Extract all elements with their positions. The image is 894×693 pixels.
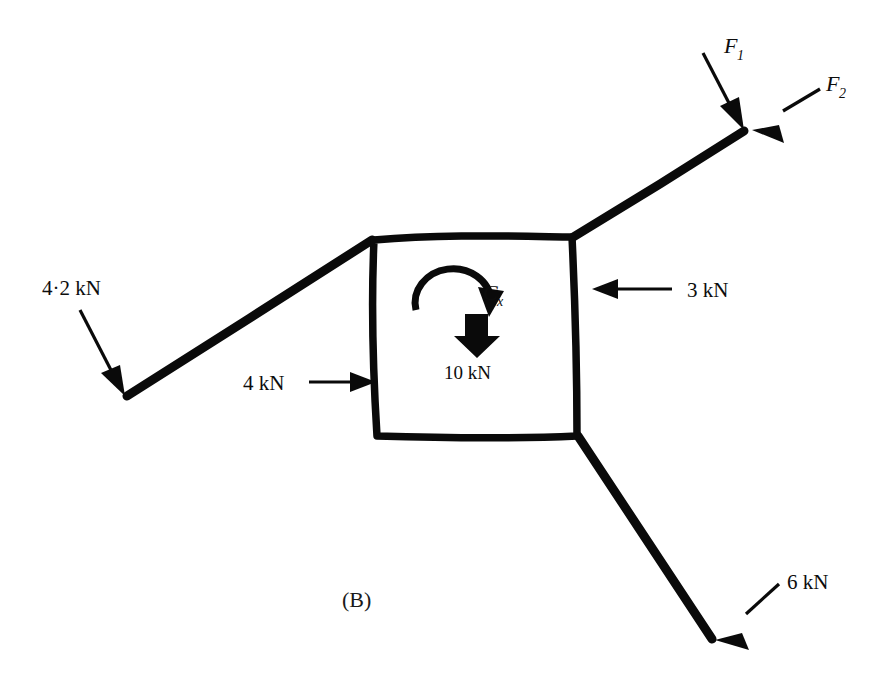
free-body-diagram: C x 10 kN 3 kN 4 kN 4·2 kN: [0, 0, 894, 693]
force-F2-arrowhead: [752, 125, 784, 143]
upper-right-member: [570, 131, 744, 239]
diagram-canvas: C x 10 kN 3 kN 4 kN 4·2 kN: [0, 0, 894, 693]
force-F1-label: F: [723, 33, 738, 58]
force-4p2kn-label: 4·2 kN: [42, 276, 101, 300]
panel-label: (B): [342, 587, 371, 612]
force-3kn-arrowhead: [592, 279, 618, 299]
force-3kn-label: 3 kN: [687, 278, 728, 302]
force-4p2kn-arrowhead: [101, 365, 125, 396]
force-3kn: 3 kN: [592, 278, 728, 302]
force-F2-label: F: [825, 71, 840, 96]
force-6kn: 6 kN: [715, 570, 828, 650]
force-F2-label-subscript: 2: [839, 86, 846, 101]
force-10kn-label: 10 kN: [444, 362, 491, 383]
couple-label-subscript: x: [496, 294, 504, 309]
force-F1-arrowhead: [720, 97, 744, 130]
force-6kn-arrowhead: [715, 633, 749, 650]
force-4p2kn-shaft: [80, 310, 113, 374]
couple-label: C: [483, 280, 498, 305]
lower-right-member: [578, 436, 712, 639]
force-6kn-shaft: [746, 584, 779, 614]
force-6kn-label: 6 kN: [787, 570, 828, 594]
force-4p2kn: 4·2 kN: [42, 276, 125, 396]
force-F2: F 2: [752, 71, 846, 143]
rigid-block: [304, 220, 717, 460]
force-F1-shaft: [703, 53, 730, 105]
force-F1-label-subscript: 1: [737, 48, 744, 63]
force-F1: F 1: [703, 33, 744, 130]
force-4kn-label: 4 kN: [243, 371, 284, 395]
force-4kn: 4 kN: [243, 371, 376, 395]
force-F2-shaft: [783, 89, 820, 111]
